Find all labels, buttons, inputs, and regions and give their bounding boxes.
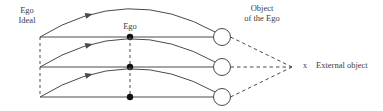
object-circle-row-bottom — [214, 89, 231, 106]
external-object-x-marker: x — [300, 61, 310, 71]
diagram-canvas — [0, 0, 383, 111]
arc-row-bottom — [40, 69, 216, 97]
figure-container: Ego Ideal Ego Object of the Ego x Extern… — [0, 0, 383, 111]
arrowhead-row-middle — [85, 41, 94, 49]
label-ego-ideal: Ego Ideal — [8, 6, 46, 25]
arc-row-middle — [40, 39, 216, 67]
object-circle-row-top — [214, 29, 231, 46]
converging-dashed-line-row-top — [231, 37, 293, 67]
arrowhead-row-top — [85, 11, 94, 19]
arrowhead-row-bottom — [85, 71, 94, 79]
label-ego: Ego — [113, 22, 147, 32]
converging-dashed-line-row-bottom — [231, 67, 293, 97]
label-object-of-the-ego: Object of the Ego — [232, 4, 292, 23]
object-circle-row-middle — [214, 59, 231, 76]
label-external-object: External object — [316, 61, 382, 71]
